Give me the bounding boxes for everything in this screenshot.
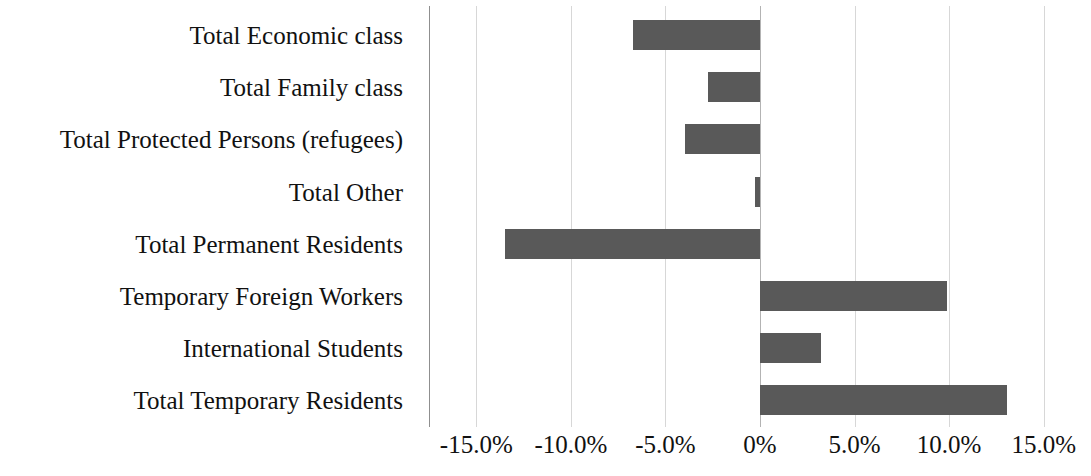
category-label: International Students	[0, 336, 403, 361]
bar	[760, 385, 1007, 415]
gridline	[855, 6, 856, 427]
gridline	[476, 6, 477, 427]
x-tick-label: 10.0%	[917, 432, 982, 457]
x-tick-label: 5.0%	[829, 432, 881, 457]
category-label: Total Permanent Residents	[0, 232, 403, 257]
category-label: Temporary Foreign Workers	[0, 284, 403, 309]
x-tick-label: -5.0%	[635, 432, 695, 457]
bar	[685, 124, 760, 154]
x-tick-label: 15.0%	[1011, 432, 1076, 457]
gridline	[665, 6, 666, 427]
bar	[755, 177, 760, 207]
bar	[708, 72, 760, 102]
x-tick-label: 0%	[743, 432, 776, 457]
category-label: Total Protected Persons (refugees)	[0, 127, 403, 152]
category-axis-line	[429, 6, 430, 427]
gridline	[949, 6, 950, 427]
bar	[760, 333, 821, 363]
zero-baseline	[760, 6, 761, 427]
percent-change-bar-chart: Total Economic classTotal Family classTo…	[0, 0, 1091, 476]
bar	[633, 20, 760, 50]
gridline	[1044, 6, 1045, 427]
gridline	[571, 6, 572, 427]
value-axis-tick-labels: -15.0%-10.0%-5.0%0%5.0%10.0%15.0%	[429, 432, 1091, 476]
x-tick-label: -10.0%	[534, 432, 607, 457]
x-tick-label: -15.0%	[440, 432, 513, 457]
bar	[505, 229, 760, 259]
category-label: Total Other	[0, 180, 403, 205]
category-label: Total Family class	[0, 75, 403, 100]
plot-area	[429, 0, 1091, 427]
category-label: Total Economic class	[0, 23, 403, 48]
category-axis-labels: Total Economic classTotal Family classTo…	[0, 0, 403, 427]
bar	[760, 281, 947, 311]
category-label: Total Temporary Residents	[0, 388, 403, 413]
